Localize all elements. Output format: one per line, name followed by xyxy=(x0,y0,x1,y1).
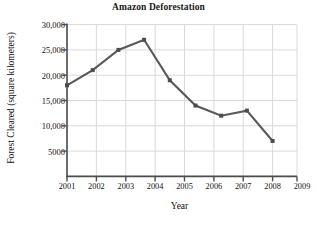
horizontal-gridlines xyxy=(67,25,297,152)
data-point-2005 xyxy=(168,78,172,82)
data-point-2001 xyxy=(65,83,69,87)
data-point-2003 xyxy=(116,48,120,52)
data-point-2007 xyxy=(219,114,223,118)
data-point-2006 xyxy=(194,104,198,108)
data-point-2008 xyxy=(245,109,249,113)
data-point-2009 xyxy=(271,139,275,143)
data-point-2004 xyxy=(142,38,146,42)
data-point-2002 xyxy=(91,68,95,72)
plot-area xyxy=(0,0,317,225)
line-chart: Amazon Deforestation Forest Cleared (squ… xyxy=(0,0,317,225)
